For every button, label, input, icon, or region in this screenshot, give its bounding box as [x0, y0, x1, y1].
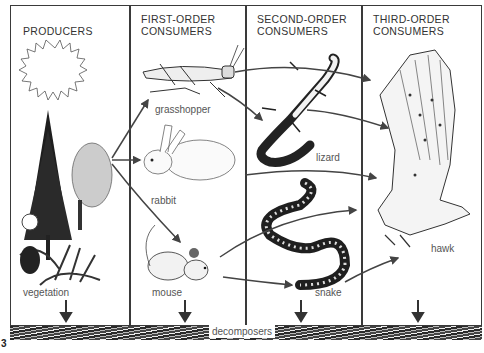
- arrow-lizard-hawk: [307, 110, 388, 128]
- energy-flow-arrows: [112, 68, 398, 286]
- rabbit-illustration: [144, 125, 235, 180]
- label-grasshopper: grasshopper: [155, 104, 211, 115]
- label-hawk: hawk: [431, 243, 454, 254]
- label-mouse: mouse: [152, 287, 182, 298]
- snake-illustration: [266, 183, 345, 285]
- label-rabbit: rabbit: [151, 195, 176, 206]
- arrow-vegetation-grasshopper: [112, 100, 148, 158]
- label-decomposers: decomposers: [209, 325, 275, 338]
- sun-icon: [19, 40, 87, 100]
- arrow-snake-hawk: [345, 258, 398, 282]
- arrow-grasshopper-lizard: [218, 88, 262, 120]
- vegetation-illustration: [20, 110, 112, 285]
- label-snake: snake: [315, 287, 342, 298]
- mouse-illustration: [146, 225, 208, 280]
- figure-number: 3: [1, 338, 7, 349]
- grasshopper-illustration: [143, 45, 244, 97]
- arrow-mouse-snake: [223, 277, 292, 285]
- lizard-illustration: [261, 58, 335, 162]
- hawk-illustration: [378, 50, 470, 247]
- decomposer-arrows: [61, 300, 423, 321]
- arrow-grasshopper-hawk: [235, 68, 370, 81]
- food-web-illustration: [0, 0, 484, 353]
- label-vegetation: vegetation: [23, 287, 69, 298]
- label-lizard: lizard: [316, 152, 340, 163]
- arrow-rabbit-hawk: [245, 171, 376, 178]
